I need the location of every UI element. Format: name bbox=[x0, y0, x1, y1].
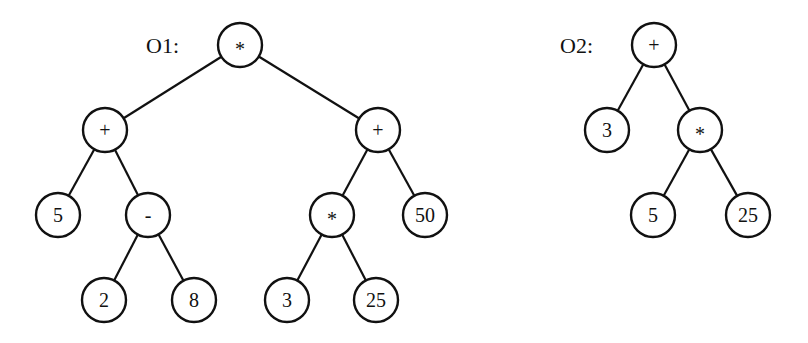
tree-edge bbox=[115, 150, 138, 196]
tree-node: 2 bbox=[82, 278, 126, 322]
tree-label: O2: bbox=[560, 33, 593, 58]
node-value: 3 bbox=[602, 119, 612, 141]
node-value: * bbox=[695, 123, 705, 145]
tree-node: * bbox=[310, 193, 354, 237]
node-value: + bbox=[372, 119, 383, 141]
node-value: * bbox=[235, 38, 245, 60]
tree-edge bbox=[711, 149, 737, 196]
node-value: 8 bbox=[189, 289, 199, 311]
tree-node: + bbox=[632, 23, 676, 67]
node-value: - bbox=[145, 204, 152, 226]
node-value: 25 bbox=[366, 289, 386, 311]
tree-node: 3 bbox=[265, 278, 309, 322]
node-value: * bbox=[327, 208, 337, 230]
tree-label: O1: bbox=[146, 33, 179, 58]
tree-node: 5 bbox=[36, 193, 80, 237]
tree-edge bbox=[297, 234, 321, 280]
tree-node: 3 bbox=[585, 108, 629, 152]
tree-node: * bbox=[218, 23, 262, 67]
tree-edge bbox=[69, 149, 95, 195]
tree-edge bbox=[664, 149, 690, 195]
tree-edge bbox=[342, 149, 367, 195]
tree-edge bbox=[114, 235, 138, 281]
node-value: 2 bbox=[99, 289, 109, 311]
tree-edge bbox=[389, 149, 415, 195]
expression-trees-canvas: *++5-*5028325O1:+3*525O2: bbox=[0, 0, 808, 343]
tree-edge bbox=[618, 64, 644, 110]
tree-o1: *++5-*5028325O1: bbox=[36, 23, 447, 322]
tree-node: + bbox=[83, 108, 127, 152]
node-value: 5 bbox=[648, 204, 658, 226]
node-value: + bbox=[99, 119, 110, 141]
tree-edge bbox=[124, 57, 222, 119]
tree-node: * bbox=[678, 108, 722, 152]
tree-node: 25 bbox=[726, 193, 770, 237]
tree-edge bbox=[158, 234, 183, 280]
node-value: + bbox=[648, 34, 659, 56]
tree-node: 25 bbox=[354, 278, 398, 322]
node-value: 25 bbox=[738, 204, 758, 226]
tree-node: 8 bbox=[172, 278, 216, 322]
tree-edge bbox=[259, 57, 360, 119]
tree-edge bbox=[342, 235, 366, 281]
node-value: 50 bbox=[415, 204, 435, 226]
tree-node: 5 bbox=[631, 193, 675, 237]
tree-o2: +3*525O2: bbox=[560, 23, 770, 237]
tree-edge bbox=[664, 64, 689, 110]
tree-node: + bbox=[356, 108, 400, 152]
tree-node: - bbox=[126, 193, 170, 237]
node-value: 5 bbox=[53, 204, 63, 226]
tree-node: 50 bbox=[403, 193, 447, 237]
node-value: 3 bbox=[282, 289, 292, 311]
